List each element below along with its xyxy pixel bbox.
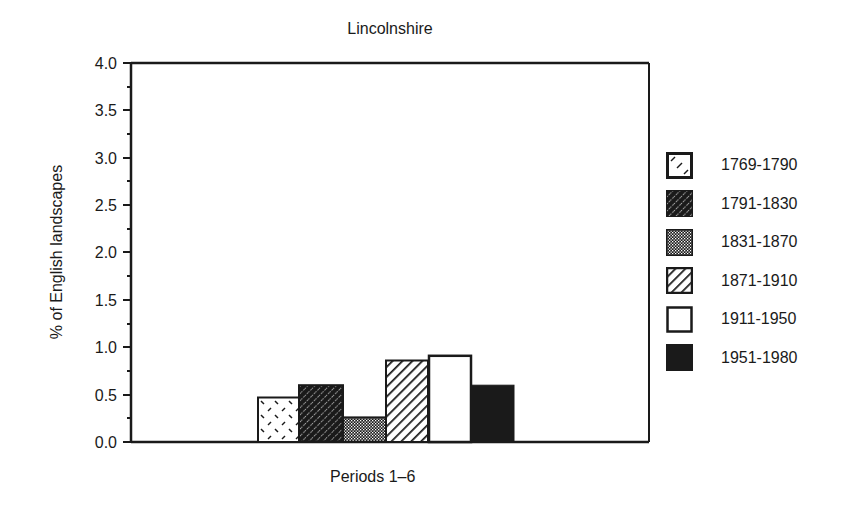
y-tick-label: 0.0	[95, 434, 117, 451]
legend-item: 1871-1910	[666, 262, 798, 301]
legend-label: 1791-1830	[721, 195, 798, 213]
swatch-checker-icon	[666, 229, 693, 256]
bar-1791-1830	[299, 385, 343, 442]
y-axis: 0.0 0.5 1.0 1.5 2.0 2.5 3.0 3.5 4.0	[95, 55, 131, 451]
legend-label: 1871-1910	[721, 272, 798, 290]
legend-item: 1831-1870	[666, 223, 798, 262]
legend-item: 1769-1790	[666, 146, 798, 185]
swatch-white-icon	[666, 306, 693, 333]
legend-item: 1951-1980	[666, 339, 798, 378]
swatch-stripes-icon	[666, 267, 693, 294]
bars	[258, 356, 514, 442]
legend: 1769-1790 1791-1830 1831-1870 1871-1910 …	[666, 146, 798, 377]
legend-label: 1769-1790	[721, 156, 798, 174]
bar-1951-1980	[471, 385, 514, 442]
y-tick-label: 3.5	[95, 102, 117, 119]
swatch-dark-diagonal-icon	[666, 190, 693, 217]
y-tick-label: 2.5	[95, 197, 117, 214]
y-tick-label: 1.5	[95, 292, 117, 309]
legend-label: 1911-1950	[721, 310, 796, 328]
bar-1831-1870	[343, 417, 386, 442]
y-tick-label: 1.0	[95, 339, 117, 356]
bar-1911-1950	[429, 356, 471, 442]
y-tick-label: 0.5	[95, 387, 117, 404]
legend-label: 1831-1870	[721, 233, 798, 251]
swatch-black-icon	[666, 344, 693, 371]
y-tick-label: 3.0	[95, 150, 117, 167]
bar-1769-1790	[258, 398, 299, 443]
legend-label: 1951-1980	[721, 349, 798, 367]
legend-item: 1911-1950	[666, 300, 798, 339]
y-tick-label: 2.0	[95, 244, 117, 261]
y-tick-label: 4.0	[95, 55, 117, 72]
swatch-dashed-icon	[666, 152, 693, 179]
legend-item: 1791-1830	[666, 185, 798, 224]
bar-1871-1910	[386, 361, 428, 443]
